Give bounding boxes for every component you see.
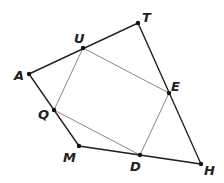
point-Q: [52, 108, 56, 112]
label-E: E: [171, 79, 180, 94]
diagram-svg: TUAEQMDH: [0, 0, 224, 183]
label-U: U: [74, 31, 85, 46]
point-U: [81, 46, 85, 50]
point-T: [136, 21, 140, 25]
label-T: T: [142, 10, 152, 25]
label-M: M: [63, 150, 76, 165]
inner-quadrilateral-UEDQ: [54, 48, 169, 155]
point-H: [199, 162, 203, 166]
label-H: H: [204, 163, 215, 178]
label-D: D: [130, 159, 141, 174]
point-M: [77, 144, 81, 148]
geometry-diagram: TUAEQMDH: [0, 0, 224, 183]
label-A: A: [13, 68, 24, 83]
point-D: [138, 153, 142, 157]
label-Q: Q: [38, 107, 49, 122]
point-A: [27, 72, 31, 76]
